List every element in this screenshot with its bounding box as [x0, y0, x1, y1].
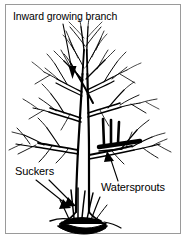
branches-upper-left — [32, 35, 84, 96]
label-watersprouts: Watersprouts — [101, 182, 165, 193]
tree-illustration — [0, 0, 187, 239]
branches-top — [66, 19, 104, 50]
trunk-base — [50, 212, 121, 234]
label-inward-growing-branch: Inward growing branch — [13, 11, 117, 22]
tree-drawing — [9, 19, 171, 234]
branches-upper-right — [86, 34, 141, 94]
label-suckers: Suckers — [15, 166, 54, 177]
leader-suckers — [36, 180, 76, 209]
scaffold-branch-lower-left — [9, 118, 78, 163]
tree-pruning-figure: Inward growing branch Suckers Watersprou… — [0, 0, 187, 239]
arrowhead-suckers-b — [64, 197, 76, 207]
